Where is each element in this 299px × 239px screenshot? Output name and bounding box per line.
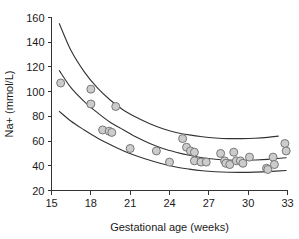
y-tick-label: 80 [32,110,44,122]
y-tick-label: 160 [26,12,44,24]
data-point-marker [108,128,116,136]
upper-reference-curve [59,24,278,139]
x-axis-ticks: 15182124273033 [45,191,293,209]
chart-figure: 20406080100120140160 15182124273033 Gest… [0,0,299,239]
data-point-marker [270,161,278,169]
data-point-marker [126,144,134,152]
data-point-marker [190,148,198,156]
data-point-marker [166,158,174,166]
data-point-marker [112,102,120,110]
data-point-marker [239,159,247,167]
data-point-marker [281,140,289,148]
x-tick-label: 24 [163,197,175,209]
y-tick-label: 40 [32,160,44,172]
data-point-marker [57,79,65,87]
x-axis-title: Gestational age (weeks) [110,221,229,233]
data-point-marker [87,100,95,108]
data-point-marker [152,147,160,155]
data-point-marker [87,85,95,93]
y-axis-title: Na+ (mmol/L) [3,71,15,138]
data-point-marker [217,149,225,157]
data-point-marker [269,153,277,161]
y-tick-label: 100 [26,86,44,98]
x-tick-label: 15 [45,197,57,209]
y-tick-label: 60 [32,135,44,147]
y-tick-label: 140 [26,36,44,48]
data-point-marker [245,153,253,161]
x-tick-label: 33 [281,197,293,209]
scatter-plot: 20406080100120140160 15182124273033 Gest… [0,0,299,239]
reference-curves [59,24,286,173]
x-tick-label: 18 [85,197,97,209]
data-points [57,79,291,174]
data-point-marker [179,135,187,143]
data-point-marker [282,147,290,155]
y-axis-ticks: 20406080100120140160 [26,12,51,197]
data-point-marker [202,158,210,166]
y-tick-label: 20 [32,185,44,197]
y-tick-label: 120 [26,61,44,73]
x-tick-label: 21 [124,197,136,209]
data-point-marker [230,148,238,156]
x-tick-label: 30 [242,197,254,209]
x-tick-label: 27 [203,197,215,209]
